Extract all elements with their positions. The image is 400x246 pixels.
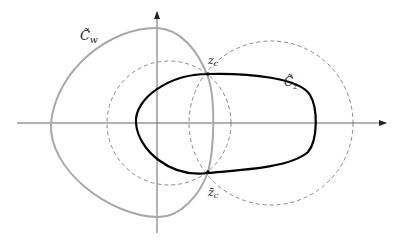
label-z-c: zc (207, 54, 219, 68)
point-z-c-bar (206, 170, 210, 174)
label-c-w: C̃w (80, 28, 98, 45)
point-z-c (206, 72, 210, 76)
diagram-canvas: C̃w C̃z zc z̄c (0, 0, 400, 246)
label-z-c-bar: z̄c (207, 186, 219, 200)
label-c-z: C̃z (284, 74, 298, 91)
